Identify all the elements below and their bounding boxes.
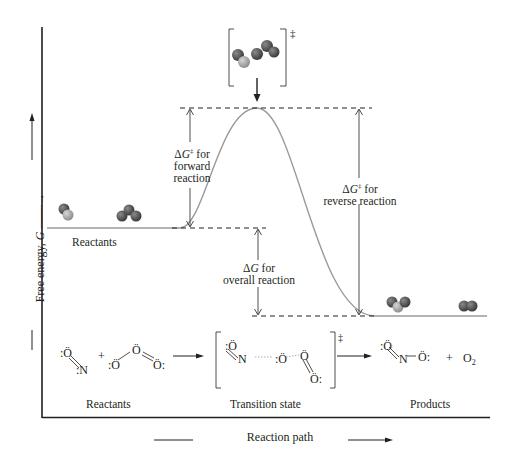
- no2-molecule-model: [387, 297, 411, 313]
- o3-molecule-model: [117, 205, 142, 222]
- bottom-reactants-label: Reactants: [86, 398, 131, 410]
- lewis-ts-n: N: [238, 352, 247, 367]
- reaction-arrow-1: [173, 354, 204, 359]
- lewis-o3-o2: Ö: [132, 343, 141, 358]
- forward-barrier-label: ΔG‡ for forward reaction: [170, 145, 214, 184]
- lewis-no2-o1: :Ö: [380, 339, 392, 354]
- lewis-o3-o1: :Ö: [108, 358, 120, 373]
- no-molecule-model: [59, 204, 74, 221]
- y-axis-label: Free energy, G ——→: [33, 168, 48, 328]
- reaction-arrow-2: [337, 354, 372, 359]
- bottom-transition-label: Transition state: [230, 398, 301, 410]
- lewis-no2-n: N: [399, 352, 408, 367]
- x-axis-label: Reaction path: [150, 430, 410, 445]
- lewis-ts-o: :Ö: [225, 339, 237, 354]
- o2-molecule-model: [459, 301, 478, 312]
- curve-reactants-label: Reactants: [72, 236, 117, 248]
- reverse-barrier-label: ΔG‡ for reverse reaction: [318, 180, 402, 207]
- reverse-barrier-arrow: [356, 109, 363, 315]
- lewis-no-o: :Ö: [60, 346, 72, 361]
- lewis-no2-o2: Ö:: [418, 350, 430, 365]
- lewis-ts-o-bottom: Ö:: [310, 372, 322, 387]
- lewis-o2: O2: [463, 351, 476, 367]
- lewis-no-n: :N: [76, 363, 88, 378]
- ts-dagger-bottom: ‡: [338, 332, 343, 344]
- lewis-plus-2: +: [446, 351, 453, 366]
- peak-pointer-arrow: [254, 78, 261, 102]
- lewis-plus-1: +: [98, 349, 105, 364]
- bottom-products-label: Products: [410, 398, 450, 410]
- lewis-o3-o3: Ö:: [153, 358, 165, 373]
- transition-state-model: [229, 29, 286, 86]
- overall-energy-label: ΔG for overall reaction: [220, 262, 298, 286]
- ts-dagger-top: ‡: [290, 27, 296, 39]
- lewis-ts-o-mid: :Ö: [275, 352, 287, 367]
- lewis-ts-o-right: Ö: [300, 349, 309, 364]
